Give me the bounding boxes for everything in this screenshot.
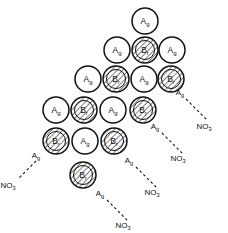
ion-ag: Ag <box>159 37 185 63</box>
arrow-start-label: Ag <box>151 122 159 132</box>
arrow-end-label: NO3 <box>196 122 211 132</box>
agbr-lattice-figure: AgAgBrAgAgBrAgBrAgBrAgBrBrAgBrBr AgNO3Ag… <box>0 0 228 233</box>
ion-ag: Ag <box>100 97 126 123</box>
ion-br: Br <box>70 162 96 188</box>
ion-br: Br <box>71 97 97 123</box>
ion-br: Br <box>132 37 158 63</box>
ion-br: Br <box>103 66 129 92</box>
arrow-bottom-center: AgNO3 <box>96 189 131 231</box>
arrow-right-upper: AgNO3 <box>176 88 212 132</box>
arrow-end-label: NO3 <box>0 181 15 191</box>
ion-circles-group: AgAgBrAgAgBrAgBrAgBrAgBrBrAgBrBr <box>43 8 185 188</box>
ion-ag: Ag <box>43 97 69 123</box>
arrow-end-label: NO3 <box>144 188 159 198</box>
dashed-arrow-line <box>136 167 156 187</box>
arrow-right-middle: AgNO3 <box>151 122 186 164</box>
dashed-arrow-line <box>107 200 127 220</box>
ion-ag: Ag <box>104 37 130 63</box>
arrow-start-label: Ag <box>176 88 184 98</box>
arrow-start-label: Ag <box>96 189 104 199</box>
arrow-start-label: Ag <box>125 156 133 166</box>
ion-ag: Ag <box>132 8 158 34</box>
ion-br: Br <box>43 128 69 154</box>
dashed-arrow-line <box>162 133 182 153</box>
arrow-left-lower: AgNO3 <box>0 151 40 191</box>
dashed-arrow-line <box>186 99 208 121</box>
arrow-start-label: Ag <box>32 151 40 161</box>
ion-br: Br <box>130 97 156 123</box>
dashed-arrow-line <box>19 161 36 178</box>
ion-ag: Ag <box>75 66 101 92</box>
lattice-canvas: AgAgBrAgAgBrAgBrAgBrAgBrBrAgBrBr AgNO3Ag… <box>0 0 228 233</box>
ion-ag: Ag <box>72 128 98 154</box>
ion-br: Br <box>101 128 127 154</box>
arrow-right-lower: AgNO3 <box>125 156 160 198</box>
arrow-end-label: NO3 <box>115 221 130 231</box>
ion-ag: Ag <box>131 66 157 92</box>
arrow-end-label: NO3 <box>170 154 185 164</box>
